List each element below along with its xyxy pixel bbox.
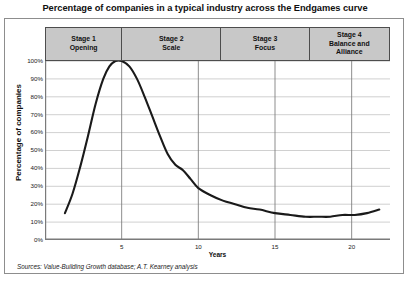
stage-cell-3: Stage 3 Focus [221,28,309,60]
y-tick-label: 40% [17,165,43,171]
stage-1-name: Stage 1 [71,35,96,44]
stage-4-descriptor-2: Alliance [336,48,362,57]
y-tick-label: 50% [17,147,43,153]
x-tick-label: 5 [110,243,134,250]
plot-svg [45,61,390,240]
y-tick-label: 30% [17,183,43,189]
stage-1-descriptor: Opening [70,44,98,53]
x-tick-label: 20 [340,243,364,250]
stage-cell-2: Stage 2 Scale [122,28,221,60]
source-note: Sources: Value-Building Growth database;… [17,263,198,270]
chart-screenshot: Percentage of companies in a typical ind… [0,0,410,291]
y-tick-label: 90% [17,76,43,82]
y-axis-tick-labels: 0%10%20%30%40%50%60%70%80%90%100% [14,61,43,240]
stage-2-name: Stage 2 [159,35,184,44]
y-tick-label: 70% [17,112,43,118]
stage-cell-1: Stage 1 Opening [46,28,122,60]
x-tick-label: 10 [186,243,210,250]
y-tick-label: 100% [17,58,43,64]
y-tick-label: 20% [17,201,43,207]
stage-3-descriptor: Focus [255,44,275,53]
y-tick-label: 80% [17,94,43,100]
plot-area [45,61,390,240]
chart-title: Percentage of companies in a typical ind… [0,3,410,13]
stage-header-band: Stage 1 Opening Stage 2 Scale Stage 3 Fo… [45,27,390,61]
x-axis-title: Years [45,251,390,258]
stage-4-descriptor: Balance and [329,40,370,49]
stage-2-descriptor: Scale [162,44,180,53]
y-tick-label: 0% [17,237,43,243]
stage-3-name: Stage 3 [253,35,278,44]
y-tick-label: 10% [17,219,43,225]
x-tick-label: 15 [263,243,287,250]
stage-cell-4: Stage 4 Balance and Alliance [310,28,389,60]
data-curve [65,61,379,217]
y-tick-label: 60% [17,129,43,135]
stage-4-name: Stage 4 [337,31,362,40]
